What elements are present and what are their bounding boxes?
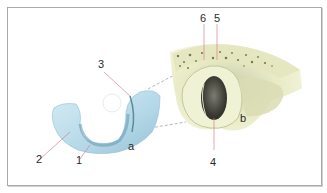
panel-label-a: a xyxy=(128,141,134,152)
callout-4: 4 xyxy=(210,157,216,168)
panel-label-b: b xyxy=(240,113,246,124)
callout-3: 3 xyxy=(98,59,104,70)
bone-section xyxy=(170,44,302,131)
callout-6: 6 xyxy=(200,13,206,24)
callout-2: 2 xyxy=(36,154,42,165)
cartilage-structure xyxy=(52,91,160,154)
callout-1: 1 xyxy=(76,155,82,166)
anatomy-illustration xyxy=(0,0,327,193)
callout-5: 5 xyxy=(214,13,220,24)
